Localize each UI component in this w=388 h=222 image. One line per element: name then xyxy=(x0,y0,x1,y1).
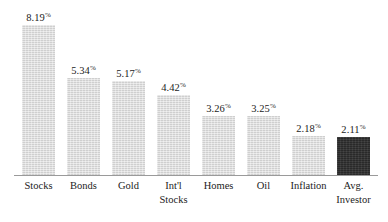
x-axis-baseline xyxy=(14,175,378,176)
bar-value-label: 3.25% xyxy=(238,103,289,114)
bar-rect xyxy=(292,136,325,176)
category-label: Avg.Investor xyxy=(325,179,382,206)
category-label-line2: Investor xyxy=(325,193,382,207)
percent-symbol: % xyxy=(315,122,321,130)
category-axis: StocksBondsGoldInt'lStocksHomesOilInflat… xyxy=(0,179,388,222)
bar-value-label: 3.26% xyxy=(193,103,244,114)
category-label-line1: Inflation xyxy=(290,180,326,191)
category-label-line1: Oil xyxy=(257,180,270,191)
percent-symbol: % xyxy=(270,102,276,110)
percent-symbol: % xyxy=(360,123,366,131)
bar-rect xyxy=(157,95,190,176)
bar-value-label: 8.19% xyxy=(13,12,64,23)
bar-rect xyxy=(337,137,370,176)
category-label-line1: Bonds xyxy=(70,180,97,191)
bar-value-number: 5.17 xyxy=(116,68,135,79)
plot-area: 8.19%5.34%5.17%4.42%3.26%3.25%2.18%2.11% xyxy=(0,0,388,176)
bar-rect xyxy=(112,81,145,176)
bar-value-number: 4.42 xyxy=(161,82,180,93)
bar-rect xyxy=(247,116,280,176)
bar-value-label: 4.42% xyxy=(148,82,199,93)
bar-value-label: 2.18% xyxy=(283,123,334,134)
percent-symbol: % xyxy=(135,67,141,75)
category-label-line1: Stocks xyxy=(24,180,52,191)
bar-value-number: 3.25 xyxy=(251,103,270,114)
category-label-line2: Stocks xyxy=(145,193,202,207)
bar-rect xyxy=(22,25,55,176)
category-label-line1: Homes xyxy=(204,180,234,191)
category-label-line1: Gold xyxy=(118,180,139,191)
bar-chart: 8.19%5.34%5.17%4.42%3.26%3.25%2.18%2.11%… xyxy=(0,0,388,222)
bar-value-label: 5.17% xyxy=(103,68,154,79)
percent-symbol: % xyxy=(45,11,51,19)
category-label-line1: Avg. xyxy=(344,180,364,191)
bar-value-number: 5.34 xyxy=(71,65,90,76)
percent-symbol: % xyxy=(225,102,231,110)
bar-rect xyxy=(67,78,100,176)
bar-rect xyxy=(202,116,235,176)
bar-value-number: 8.19 xyxy=(26,12,45,23)
bar-value-number: 2.18 xyxy=(296,123,315,134)
bar-value-label: 5.34% xyxy=(58,65,109,76)
bar-value-number: 2.11 xyxy=(341,124,359,135)
bar-value-number: 3.26 xyxy=(206,103,225,114)
percent-symbol: % xyxy=(90,64,96,72)
category-label-line1: Int'l xyxy=(165,180,181,191)
percent-symbol: % xyxy=(180,81,186,89)
bar-value-label: 2.11% xyxy=(328,124,379,135)
